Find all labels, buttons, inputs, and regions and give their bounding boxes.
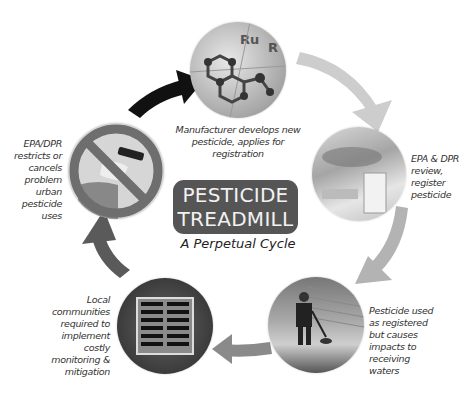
arrow-develop-to-register [296,52,392,132]
storm-drain-grate-icon [117,278,213,374]
title-line-2: TREADMILL [173,207,298,231]
subtitle: A Perpetual Cycle [178,236,298,251]
caption-line: pesticide [0,198,62,210]
caption-line: costly [30,342,110,354]
prohibited-sprayer-photo [68,123,164,219]
molecule-model-photo: Ru R [190,22,286,118]
caption-line: EPA & DPR [411,153,470,165]
title-line-1: PESTICIDE [173,183,298,207]
caption-line: restricts or [0,150,62,162]
svg-text:Ru: Ru [240,32,259,47]
caption-line: as registered [369,317,459,329]
caption-restrict: EPA/DPR restricts or cancels problem urb… [0,138,62,222]
caption-line: communities [30,306,110,318]
caption-line: problem [0,174,62,186]
person-spraying-icon [268,277,364,373]
caption-line: monitoring & [30,354,110,366]
caption-line: Manufacturer develops new [168,124,308,136]
caption-mitigate: Local communities required to implement … [30,294,110,378]
caption-develop: Manufacturer develops new pesticide, app… [168,124,308,160]
caption-line: impacts to [369,341,459,353]
molecule-icon: Ru R [190,22,286,118]
center-title-box: PESTICIDE TREADMILL [173,180,298,234]
caption-line: registration [168,148,308,160]
caption-line: pesticide, applies for [168,136,308,148]
arrow-mitigate-to-restrict [82,210,130,278]
caption-line: Local [30,294,110,306]
svg-text:R: R [268,40,278,55]
caption-line: urban [0,186,62,198]
storm-drain-photo [117,278,213,374]
caption-line: Pesticide used [369,305,459,317]
caption-line: uses [0,210,62,222]
caption-line: implement [30,330,110,342]
caption-line: register [411,177,470,189]
caption-line: EPA/DPR [0,138,62,150]
caption-line: receiving [369,353,459,365]
caption-line: but causes [369,329,459,341]
prohibited-sign-icon [68,123,164,219]
lab-glassware-icon [312,127,406,221]
lab-review-photo [312,127,406,221]
caption-line: pesticide [411,189,470,201]
caption-line: waters [369,365,459,377]
arrow-use-to-mitigate [212,334,272,364]
caption-line: mitigation [30,366,110,378]
caption-line: required to [30,318,110,330]
caption-use: Pesticide used as registered but causes … [369,305,459,377]
pesticide-treadmill-diagram: Ru R [0,0,470,400]
caption-line: cancels [0,162,62,174]
caption-line: review, [411,165,470,177]
caption-register: EPA & DPR review, register pesticide [411,153,470,201]
spraying-applicator-photo [268,277,364,373]
